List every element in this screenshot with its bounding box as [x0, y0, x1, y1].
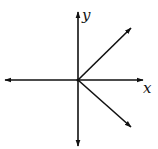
lower-right-vector — [78, 80, 131, 127]
origin-point — [76, 78, 79, 81]
x-axis-label: x — [143, 79, 152, 97]
upper-right-vector — [78, 28, 131, 80]
y-axis-label: y — [81, 6, 91, 24]
coordinate-diagram: y x — [0, 0, 158, 149]
